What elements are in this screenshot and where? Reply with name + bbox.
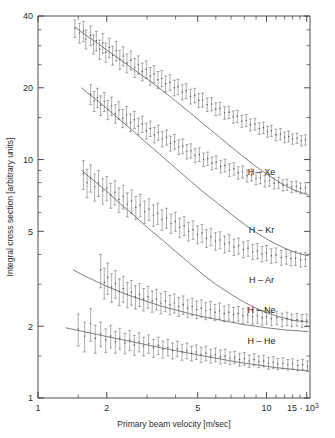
data-point [100,333,101,334]
data-point [177,86,178,87]
data-point [211,103,212,104]
data-point [99,49,100,50]
data-point [295,257,296,258]
data-point [260,177,261,178]
data-point [158,132,159,133]
data-point [143,298,144,299]
data-point [229,357,230,358]
data-point [205,353,206,354]
data-point [188,231,189,232]
data-point [200,354,201,355]
data-point [185,90,186,91]
series-hne: H – Ne [73,254,309,331]
data-point [183,225,184,226]
data-point [83,173,84,174]
data-point [111,105,112,106]
data-point [206,237,207,238]
data-point [106,187,107,188]
data-point [246,120,247,121]
data-point [305,139,306,140]
data-point [172,350,173,351]
data-point [305,187,306,188]
data-point [220,166,221,167]
data-point [153,347,154,348]
data-point [267,131,268,132]
data-point [118,110,119,111]
series-label: H – Ne [247,305,275,315]
x-tick-label: 2 [104,403,109,413]
data-point [201,232,202,233]
data-point [127,203,128,204]
data-point [95,338,96,339]
fit-curve [66,328,309,371]
data-point [161,219,162,220]
data-point [110,335,111,336]
data-point [301,140,302,141]
data-point [290,258,291,259]
data-point [150,75,151,76]
x-tick-label: 5 [195,403,200,413]
data-point [119,291,120,292]
data-point [74,28,75,29]
data-point [122,118,123,119]
data-point [181,351,182,352]
data-point [138,64,139,65]
error-bar [89,309,92,342]
data-point [100,105,101,106]
data-point [238,172,239,173]
data-point [186,151,187,152]
data-point [266,252,267,253]
data-point [183,304,184,305]
data-point [286,184,287,185]
error-bar [130,281,133,306]
data-point [194,95,195,96]
data-point [174,141,175,142]
data-point [215,161,216,162]
data-point [84,335,85,336]
data-point [143,345,144,346]
data-point [224,355,225,356]
data-point [291,319,292,320]
data-point [154,134,155,135]
data-point [165,83,166,84]
series-label: H – Xe [248,167,276,177]
data-point [219,239,220,240]
data-point [148,343,149,344]
data-point [206,104,207,105]
data-point [284,137,285,138]
data-point [150,128,151,129]
error-bar [103,268,106,299]
data-point [78,328,79,329]
data-point [86,182,87,183]
data-point [162,138,163,139]
data-point [261,317,262,318]
data-point [228,312,229,313]
x-tick-label: 1 [35,403,40,413]
data-point [85,38,86,39]
data-point [297,365,298,366]
data-point [90,323,91,324]
data-point [134,67,135,68]
data-point [146,130,147,131]
data-point [109,47,110,48]
data-point [153,73,154,74]
data-point [142,123,143,124]
data-point [102,190,103,191]
error-bar [82,161,85,190]
data-point [112,54,113,55]
data-point [169,82,170,83]
data-point [305,259,306,260]
data-point [224,313,225,314]
data-point [174,302,175,303]
data-point [286,256,287,257]
data-point [281,319,282,320]
data-point [277,363,278,364]
series-hxe: H – Xe [73,20,308,195]
data-point [261,253,262,254]
y-tick-label: 5 [28,227,33,237]
data-point [238,245,239,246]
data-point [238,313,239,314]
data-point [278,182,279,183]
data-point [93,43,94,44]
data-point [288,136,289,137]
